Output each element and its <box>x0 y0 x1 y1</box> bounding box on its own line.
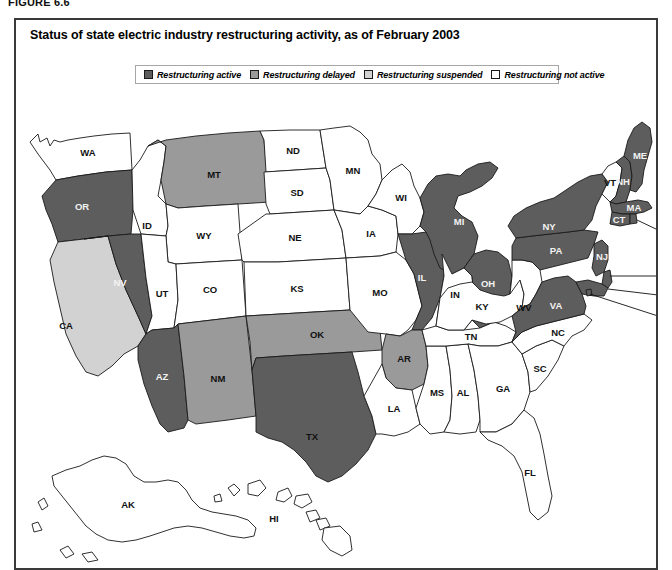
state-label-OK: OK <box>310 329 324 340</box>
state-HI4 <box>276 488 292 502</box>
legend-swatch-active <box>144 70 153 79</box>
state-label-IN: IN <box>450 289 460 300</box>
state-label-FL: FL <box>524 467 536 478</box>
map-legend: Restructuring active Restructuring delay… <box>135 65 559 84</box>
state-label-WI: WI <box>395 192 407 203</box>
state-NM <box>178 316 256 424</box>
state-HI5 <box>294 494 312 508</box>
legend-label-active: Restructuring active <box>157 70 241 80</box>
state-label-OR: OR <box>75 201 89 212</box>
state-label-MN: MN <box>346 165 361 176</box>
state-DC <box>586 289 592 296</box>
state-label-OH: OH <box>481 278 495 289</box>
state-label-KS: KS <box>290 283 303 294</box>
state-label-CT: CT <box>613 214 626 225</box>
state-label-NE: NE <box>288 232 301 243</box>
state-label-SC: SC <box>533 363 546 374</box>
legend-item-delayed: Restructuring delayed <box>250 70 355 80</box>
state-label-AK: AK <box>121 499 135 510</box>
state-label-IL: IL <box>418 272 427 283</box>
state-label-ND: ND <box>286 145 300 156</box>
state-label-NC: NC <box>551 327 565 338</box>
state-HI8 <box>322 526 352 556</box>
state-label-AR: AR <box>397 353 411 364</box>
legend-swatch-delayed <box>250 70 259 79</box>
legend-swatch-not-active <box>491 70 500 79</box>
state-TX <box>252 352 376 482</box>
state-label-AL: AL <box>457 387 470 398</box>
state-label-MT: MT <box>207 169 221 180</box>
state-label-VA: VA <box>550 300 563 311</box>
state-NY <box>508 174 608 238</box>
leader-line-DC <box>590 294 656 316</box>
state-label-LA: LA <box>388 403 401 414</box>
legend-label-not-active: Restructuring not active <box>504 70 604 80</box>
state-label-TX: TX <box>306 431 319 442</box>
state-HI2 <box>214 494 222 502</box>
state-label-MI: MI <box>454 216 465 227</box>
state-HI1 <box>228 484 240 496</box>
state-AK <box>32 456 256 562</box>
state-HI3 <box>248 480 266 496</box>
state-label-CO: CO <box>203 284 217 295</box>
state-label-WY: WY <box>196 230 212 241</box>
legend-item-active: Restructuring active <box>144 70 241 80</box>
legend-swatch-suspended <box>364 70 373 79</box>
state-label-NY: NY <box>542 221 556 232</box>
state-label-NM: NM <box>211 373 226 384</box>
state-label-WA: WA <box>80 147 95 158</box>
state-RI <box>630 214 637 224</box>
state-label-NV: NV <box>113 277 127 288</box>
state-label-AZ: AZ <box>156 371 169 382</box>
state-label-HI: HI <box>269 513 279 524</box>
figure-number: FIGURE 6.6 <box>8 0 70 8</box>
legend-label-suspended: Restructuring suspended <box>377 70 483 80</box>
legend-item-suspended: Restructuring suspended <box>364 70 483 80</box>
leader-line-RI <box>637 220 656 230</box>
leader-line-MD <box>608 289 656 295</box>
state-label-CA: CA <box>59 320 73 331</box>
state-label-TN: TN <box>465 331 478 342</box>
legend-label-delayed: Restructuring delayed <box>263 70 355 80</box>
figure-title: Status of state electric industry restru… <box>30 28 460 42</box>
state-label-NH: NH <box>616 176 630 187</box>
state-label-KY: KY <box>475 301 489 312</box>
state-label-SD: SD <box>290 187 303 198</box>
state-label-PA: PA <box>550 245 563 256</box>
state-label-MS: MS <box>430 387 444 398</box>
state-label-ME: ME <box>633 150 647 161</box>
figure-frame: Status of state electric industry restru… <box>14 18 658 570</box>
state-label-IA: IA <box>366 228 376 239</box>
state-label-UT: UT <box>156 288 169 299</box>
us-map-svg: WA OR CA NV ID MT WY UT CO AZ NM ND SD N… <box>16 84 656 568</box>
state-label-NJ: NJ <box>596 251 608 262</box>
us-choropleth-map: WA OR CA NV ID MT WY UT CO AZ NM ND SD N… <box>16 84 656 568</box>
legend-item-not-active: Restructuring not active <box>491 70 604 80</box>
state-label-WV: WV <box>516 302 532 313</box>
state-label-MA: MA <box>627 202 642 213</box>
state-label-MO: MO <box>372 287 387 298</box>
state-label-GA: GA <box>496 383 510 394</box>
state-label-VT: VT <box>604 177 616 188</box>
state-label-ID: ID <box>142 220 152 231</box>
